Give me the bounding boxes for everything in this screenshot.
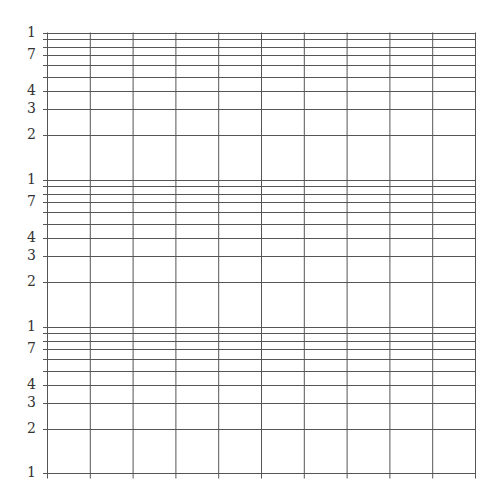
y-axis-label: 2 — [27, 273, 36, 289]
y-axis-label: 4 — [27, 82, 36, 98]
y-axis-label: 2 — [27, 420, 36, 436]
y-axis-label: 3 — [27, 100, 36, 116]
y-axis-label: 1 — [27, 24, 36, 40]
y-axis-label: 2 — [27, 126, 36, 142]
y-axis-label: 1 — [27, 171, 36, 187]
y-axis-label: 7 — [27, 46, 36, 62]
y-axis-label: 3 — [27, 394, 36, 410]
y-axis-label: 1 — [27, 318, 36, 334]
y-axis-label: 7 — [27, 193, 36, 209]
y-axis-label: 7 — [27, 340, 36, 356]
y-axis-label: 4 — [27, 229, 36, 245]
semi-log-graph-paper: 1743217432174321 — [0, 0, 499, 503]
y-axis-label: 3 — [27, 247, 36, 263]
y-axis-label: 1 — [27, 464, 36, 480]
y-axis-label: 4 — [27, 376, 36, 392]
